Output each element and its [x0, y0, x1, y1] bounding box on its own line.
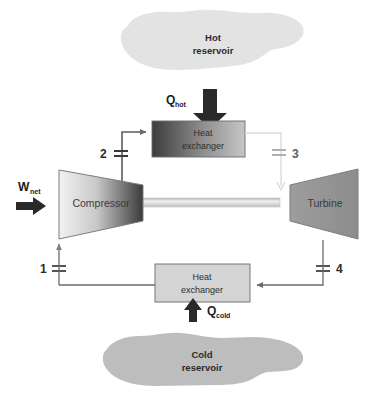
pipe-3-segment — [245, 133, 281, 186]
w-net-arrow-glyph — [16, 197, 46, 215]
w-net-label: W net — [18, 180, 41, 195]
pipe-hx-hot-to-3 — [245, 133, 285, 190]
w-net-subscript: net — [30, 188, 41, 195]
brayton-cycle-figure: Hot reservoir Q hot Heat exchanger — [0, 0, 378, 412]
state-point-4: 4 — [336, 262, 343, 276]
heat-exchanger-hot-box — [152, 121, 245, 157]
state-tick-2 — [114, 151, 128, 156]
w-net-symbol: W — [18, 180, 30, 194]
q-hot-label: Q hot — [166, 93, 187, 108]
drive-shaft — [128, 198, 280, 207]
heat-exchanger-hot: Heat exchanger — [152, 121, 245, 157]
pipe-turbine-to-4 — [257, 240, 323, 285]
hot-reservoir-label-line1: Hot — [205, 32, 222, 43]
state-tick-3 — [272, 150, 286, 155]
drive-shaft-bar — [128, 198, 280, 207]
heat-exchanger-hot-label-line1: Heat — [193, 128, 213, 138]
q-cold-subscript: cold — [216, 312, 230, 319]
state-point-1: 1 — [40, 262, 47, 276]
hot-reservoir-label-line2: reservoir — [193, 45, 234, 56]
pipe-4-segment — [257, 240, 323, 285]
cold-reservoir-label-line2: reservoir — [182, 362, 223, 373]
heat-exchanger-cold-label-line2: exchanger — [181, 285, 223, 295]
cold-reservoir: Cold reservoir — [103, 333, 303, 386]
pipe-2-to-hx-hot — [122, 132, 146, 190]
heat-exchanger-cold: Heat exchanger — [155, 264, 250, 302]
compressor-label: Compressor — [72, 197, 130, 209]
heat-exchanger-hot-label-line2: exchanger — [182, 141, 224, 151]
pipe-2-segment — [122, 132, 146, 190]
hot-reservoir: Hot reservoir — [121, 10, 304, 70]
compressor: Compressor — [59, 170, 143, 239]
turbine: Turbine — [290, 169, 358, 239]
q-cold-symbol: Q — [207, 304, 216, 318]
heat-exchanger-cold-box — [155, 264, 250, 302]
cold-reservoir-label-line1: Cold — [191, 349, 212, 360]
w-net-arrow — [16, 197, 46, 215]
q-cold-label: Q cold — [207, 304, 230, 319]
heat-exchanger-cold-label-line1: Heat — [192, 272, 212, 282]
q-hot-subscript: hot — [175, 101, 187, 108]
turbine-label: Turbine — [307, 197, 342, 209]
state-point-2: 2 — [100, 147, 107, 161]
q-hot-symbol: Q — [166, 93, 175, 107]
state-point-3: 3 — [292, 147, 299, 161]
